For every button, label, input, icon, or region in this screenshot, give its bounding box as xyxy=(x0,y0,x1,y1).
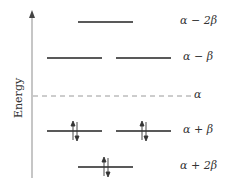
level-label-alpha-minus-2beta: α − 2β xyxy=(180,14,217,27)
axis-arrow-icon xyxy=(29,10,35,18)
level-label-alpha-plus-2beta: α + 2β xyxy=(180,159,217,172)
level-label-alpha-plus-beta: α + β xyxy=(183,123,213,136)
alpha-reference-label: α xyxy=(194,88,201,101)
level-label-alpha-minus-beta: α − β xyxy=(183,50,213,63)
mo-diagram: Energy α − 2β α − β α α + β α + 2β xyxy=(0,0,228,193)
energy-axis-label: Energy xyxy=(12,78,25,118)
